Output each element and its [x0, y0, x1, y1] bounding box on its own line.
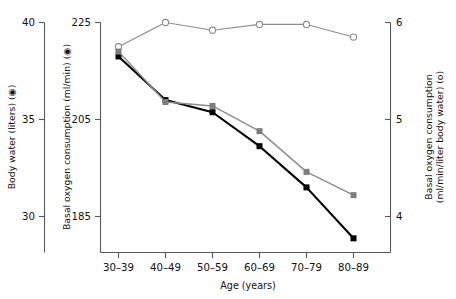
left-outer-axis: 40 35 30 Body water (liters) (◉) [6, 17, 45, 253]
data-point [304, 169, 310, 175]
left-inner-axis-title: Basal oxygen consumption (ml/min) (◉) [61, 44, 72, 230]
left-outer-ticklabel-40: 40 [22, 17, 35, 28]
right-ticklabel-6: 6 [396, 17, 402, 28]
right-axis: 6 5 4 Basal oxygen consumption (ml/min/l… [385, 17, 445, 253]
chart-svg: 40 35 30 Body water (liters) (◉) 225 205… [0, 0, 456, 299]
left-inner-ticklabel-205: 205 [72, 114, 91, 125]
left-inner-ticklabel-185: 185 [72, 211, 91, 222]
data-point [256, 21, 262, 27]
left-outer-ticklabel-35: 35 [22, 114, 35, 125]
series-3-filled-square-gray [116, 49, 357, 199]
data-point [163, 99, 169, 105]
x-axis: 30–39 40–49 50–59 60–69 70–79 80–89 Age … [101, 253, 391, 292]
data-point [257, 143, 263, 149]
x-axis-title: Age (years) [220, 280, 276, 291]
data-point [351, 192, 357, 198]
right-ticklabel-4: 4 [396, 211, 402, 222]
x-ticklabel-70-79: 70–79 [291, 262, 322, 273]
data-point [303, 21, 309, 27]
right-axis-title-line1: Basal oxygen consumption [423, 74, 434, 199]
series-line [119, 52, 354, 196]
left-outer-axis-title: Body water (liters) (◉) [6, 85, 17, 190]
data-point [304, 184, 310, 190]
data-point [116, 49, 122, 55]
series-2-filled-square-black [116, 53, 357, 241]
series-1-open-circle [115, 19, 356, 49]
data-point [162, 19, 168, 25]
data-point [209, 27, 215, 33]
figure-container: 40 35 30 Body water (liters) (◉) 225 205… [0, 0, 456, 299]
data-point [210, 109, 216, 115]
data-series-layer [115, 19, 356, 241]
left-outer-ticklabel-30: 30 [22, 211, 35, 222]
series-line [119, 23, 354, 47]
x-ticklabel-50-59: 50–59 [197, 262, 228, 273]
x-ticklabel-60-69: 60–69 [244, 262, 275, 273]
x-ticklabel-30-39: 30–39 [103, 262, 134, 273]
series-line [119, 56, 354, 238]
x-ticklabel-40-49: 40–49 [150, 262, 181, 273]
data-point [350, 34, 356, 40]
data-point [210, 103, 216, 109]
right-axis-title-line2: (ml/min/liter body water) (o) [434, 71, 445, 203]
left-inner-ticklabel-225: 225 [72, 17, 91, 28]
x-ticklabel-80-89: 80–89 [338, 262, 369, 273]
left-inner-axis: 225 205 185 Basal oxygen consumption (ml… [61, 17, 101, 253]
right-ticklabel-5: 5 [396, 114, 402, 125]
data-point [257, 128, 263, 134]
data-point [351, 235, 357, 241]
